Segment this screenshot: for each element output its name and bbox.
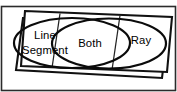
label-line-segment-line2: Segment — [22, 44, 69, 56]
venn-diagram-figure: Line Segment Both Ray — [0, 0, 177, 92]
label-ray: Ray — [131, 34, 152, 46]
diagram-canvas: Line Segment Both Ray — [0, 0, 177, 92]
label-line-segment-line1: Line — [34, 29, 56, 41]
label-both: Both — [78, 37, 102, 49]
